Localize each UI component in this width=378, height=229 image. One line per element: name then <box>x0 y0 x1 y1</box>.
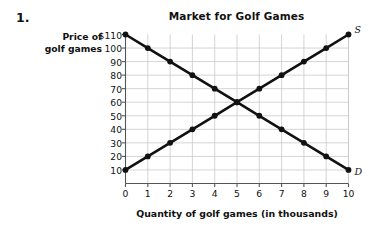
axis-ticks <box>122 35 349 188</box>
gridlines <box>126 35 349 184</box>
demand-curve-label: D <box>355 166 363 177</box>
figure-container: 1. Market for Golf Games Price of golf g… <box>0 0 378 229</box>
plot-area <box>0 0 378 229</box>
supply-curve-label: S <box>355 24 362 35</box>
